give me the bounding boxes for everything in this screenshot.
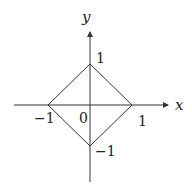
x-axis-label: x [175,96,184,114]
y-axis-label: y [81,8,91,26]
tick-x-neg: −1 [34,110,55,126]
tick-y-pos: 1 [96,50,105,66]
tick-x-pos: 1 [138,113,147,129]
tick-origin: 0 [79,110,88,126]
diagram-canvas: x y 1 −1 0 1 −1 [0,0,192,192]
tick-y-neg: −1 [95,143,116,159]
